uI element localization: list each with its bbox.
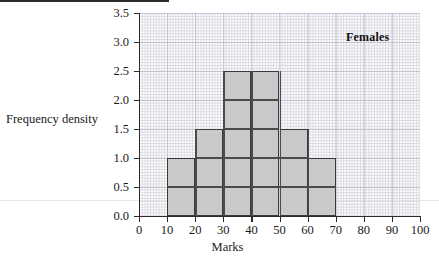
y-tick-label: 0.0 bbox=[99, 210, 129, 223]
x-tick-label: 50 bbox=[265, 223, 295, 237]
x-tick bbox=[308, 217, 309, 222]
y-tick bbox=[134, 187, 140, 188]
y-tick bbox=[134, 71, 140, 72]
y-tick bbox=[134, 129, 140, 130]
x-tick-label: 70 bbox=[321, 223, 351, 237]
x-tick-label: 100 bbox=[405, 223, 435, 237]
x-tick-label: 60 bbox=[293, 223, 323, 237]
y-tick bbox=[134, 100, 140, 101]
y-tick-label: 0.5 bbox=[99, 181, 129, 194]
y-axis-title: Frequency density bbox=[6, 112, 134, 127]
x-tick bbox=[392, 217, 393, 222]
series-annotation-females: Females bbox=[346, 30, 389, 45]
x-tick-label: 90 bbox=[377, 223, 407, 237]
x-axis-title: Marks bbox=[0, 240, 439, 255]
x-tick-label: 80 bbox=[349, 223, 379, 237]
y-tick-label: 3.0 bbox=[99, 36, 129, 49]
histogram-bar bbox=[195, 129, 223, 216]
x-tick-label: 30 bbox=[208, 223, 238, 237]
x-tick-label: 40 bbox=[236, 223, 266, 237]
histogram-bar bbox=[167, 158, 195, 216]
x-tick bbox=[223, 217, 224, 222]
y-tick bbox=[134, 158, 140, 159]
x-tick bbox=[167, 217, 168, 222]
histogram-bar bbox=[251, 71, 279, 216]
x-tick bbox=[336, 217, 337, 222]
y-tick-label: 3.5 bbox=[99, 7, 129, 20]
x-tick-label: 20 bbox=[180, 223, 210, 237]
x-tick bbox=[364, 217, 365, 222]
histogram-figure: Females 0.0 0.5 1.0 1.5 2.0 2.5 3.0 3.5 … bbox=[0, 0, 439, 263]
x-tick bbox=[280, 217, 281, 222]
x-tick bbox=[420, 217, 421, 222]
x-axis-title-text: Marks bbox=[212, 240, 244, 254]
y-tick bbox=[134, 42, 140, 43]
x-tick bbox=[139, 217, 140, 222]
histogram-bar bbox=[280, 129, 308, 216]
y-tick-label: 2.5 bbox=[99, 65, 129, 78]
x-tick-label: 0 bbox=[124, 223, 154, 237]
histogram-bar bbox=[223, 71, 251, 216]
x-tick-label: 10 bbox=[152, 223, 182, 237]
x-tick bbox=[195, 217, 196, 222]
x-tick bbox=[251, 217, 252, 222]
y-tick-label: 2.0 bbox=[99, 94, 129, 107]
x-axis-data-range bbox=[0, 0, 169, 2]
y-tick bbox=[134, 13, 140, 14]
histogram-bar bbox=[308, 158, 336, 216]
y-tick-label: 1.0 bbox=[99, 152, 129, 165]
